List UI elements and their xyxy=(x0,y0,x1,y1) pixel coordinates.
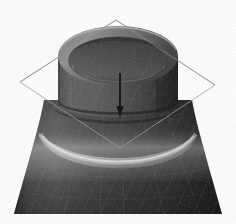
image-grain xyxy=(0,0,236,224)
render-viewport: 3D surface render of a flared nozzle wit… xyxy=(0,0,236,224)
nozzle-render-canvas xyxy=(0,0,236,224)
